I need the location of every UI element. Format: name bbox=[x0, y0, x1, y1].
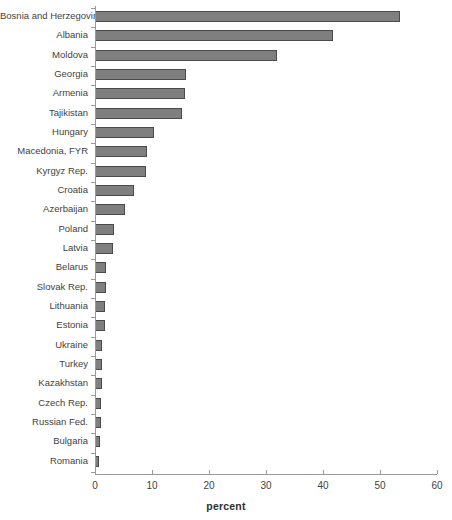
bar-row bbox=[95, 414, 437, 433]
bar-row bbox=[95, 356, 437, 375]
bar-row bbox=[95, 124, 437, 143]
bar-row bbox=[95, 317, 437, 336]
category-label: Kyrgyz Rep. bbox=[0, 165, 88, 176]
y-axis-tick bbox=[91, 356, 95, 357]
x-axis-tick bbox=[266, 470, 267, 474]
plot-area bbox=[95, 8, 437, 472]
bar-row bbox=[95, 279, 437, 298]
y-axis-tick bbox=[91, 124, 95, 125]
bar bbox=[95, 359, 102, 370]
x-axis-tick bbox=[152, 470, 153, 474]
category-label: Poland bbox=[0, 223, 88, 234]
bar bbox=[95, 243, 113, 254]
bar bbox=[95, 262, 106, 273]
category-label: Czech Rep. bbox=[0, 397, 88, 408]
bar-row bbox=[95, 259, 437, 278]
bar bbox=[95, 30, 333, 41]
category-label: Russian Fed. bbox=[0, 416, 88, 427]
y-axis-tick bbox=[91, 259, 95, 260]
category-label: Azerbaijan bbox=[0, 203, 88, 214]
x-axis-tick-label: 40 bbox=[303, 480, 343, 491]
category-label: Macedonia, FYR bbox=[0, 145, 88, 156]
bar-chart: Bosnia and HerzegovinaAlbaniaMoldovaGeor… bbox=[0, 0, 452, 520]
category-label: Croatia bbox=[0, 184, 88, 195]
category-label: Turkey bbox=[0, 358, 88, 369]
y-axis-tick bbox=[91, 143, 95, 144]
category-label: Georgia bbox=[0, 68, 88, 79]
y-axis-tick bbox=[91, 27, 95, 28]
category-label: Romania bbox=[0, 455, 88, 466]
category-label: Albania bbox=[0, 29, 88, 40]
y-axis-tick bbox=[91, 433, 95, 434]
category-label: Lithuania bbox=[0, 300, 88, 311]
y-axis-tick bbox=[91, 163, 95, 164]
bar bbox=[95, 88, 185, 99]
bar bbox=[95, 282, 106, 293]
bar bbox=[95, 204, 125, 215]
bar-row bbox=[95, 298, 437, 317]
bar-row bbox=[95, 221, 437, 240]
bar bbox=[95, 50, 277, 61]
x-axis-line bbox=[95, 474, 437, 475]
x-axis-tick-label: 30 bbox=[246, 480, 286, 491]
y-axis-tick bbox=[91, 453, 95, 454]
x-axis-title: percent bbox=[0, 500, 452, 512]
bar bbox=[95, 127, 154, 138]
category-label: Moldova bbox=[0, 49, 88, 60]
bar-row bbox=[95, 143, 437, 162]
bar-row bbox=[95, 201, 437, 220]
x-axis-tick bbox=[437, 470, 438, 474]
category-label: Kazakhstan bbox=[0, 377, 88, 388]
bar bbox=[95, 166, 146, 177]
y-axis-line bbox=[95, 6, 96, 474]
bar bbox=[95, 378, 102, 389]
x-axis-tick-label: 50 bbox=[360, 480, 400, 491]
category-label: Armenia bbox=[0, 87, 88, 98]
y-axis-tick bbox=[91, 472, 95, 473]
category-label: Estonia bbox=[0, 319, 88, 330]
x-axis-tick bbox=[95, 470, 96, 474]
bar bbox=[95, 146, 147, 157]
bar-row bbox=[95, 433, 437, 452]
bar-row bbox=[95, 47, 437, 66]
bar-row bbox=[95, 395, 437, 414]
bar-row bbox=[95, 240, 437, 259]
bar bbox=[95, 224, 114, 235]
y-axis-tick bbox=[91, 279, 95, 280]
y-axis-tick bbox=[91, 337, 95, 338]
bar-row bbox=[95, 27, 437, 46]
y-axis-tick bbox=[91, 47, 95, 48]
category-label: Bulgaria bbox=[0, 435, 88, 446]
bar bbox=[95, 301, 105, 312]
y-axis-tick bbox=[91, 395, 95, 396]
category-label: Belarus bbox=[0, 261, 88, 272]
y-axis-tick bbox=[91, 201, 95, 202]
y-axis-tick bbox=[91, 8, 95, 9]
bar-row bbox=[95, 182, 437, 201]
category-axis-labels: Bosnia and HerzegovinaAlbaniaMoldovaGeor… bbox=[0, 8, 88, 472]
bar bbox=[95, 185, 134, 196]
bar bbox=[95, 108, 182, 119]
category-label: Slovak Rep. bbox=[0, 281, 88, 292]
category-label: Hungary bbox=[0, 126, 88, 137]
bar bbox=[95, 11, 400, 22]
bar bbox=[95, 69, 186, 80]
bar-row bbox=[95, 8, 437, 27]
y-axis-tick bbox=[91, 182, 95, 183]
category-label: Bosnia and Herzegovina bbox=[0, 10, 88, 21]
bar-row bbox=[95, 85, 437, 104]
y-axis-tick bbox=[91, 414, 95, 415]
x-axis-tick bbox=[209, 470, 210, 474]
y-axis-tick bbox=[91, 317, 95, 318]
category-label: Tajikistan bbox=[0, 107, 88, 118]
bar-row bbox=[95, 375, 437, 394]
bar bbox=[95, 320, 105, 331]
y-axis-tick bbox=[91, 221, 95, 222]
category-label: Ukraine bbox=[0, 339, 88, 350]
bar bbox=[95, 340, 102, 351]
x-axis-tick bbox=[323, 470, 324, 474]
x-axis-tick-label: 60 bbox=[417, 480, 452, 491]
x-axis-tick-label: 20 bbox=[189, 480, 229, 491]
category-label: Latvia bbox=[0, 242, 88, 253]
y-axis-tick bbox=[91, 240, 95, 241]
